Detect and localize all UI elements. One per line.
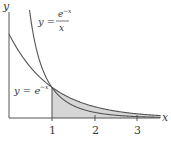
curve2-label-prefix: y = <box>37 16 55 27</box>
graph-figure: y x 1 2 3 y = e −x x y = e −x <box>0 0 171 142</box>
curve2-label-denominator: x <box>59 23 64 33</box>
curve2-label-numerator-exp: −x <box>63 7 72 14</box>
y-axis-label: y <box>2 0 10 13</box>
tick-label-3: 3 <box>134 124 141 137</box>
curve1-label-exp: −x <box>40 83 49 90</box>
curve1-label: y = e <box>13 85 40 96</box>
tick-label-1: 1 <box>49 124 56 137</box>
tick-label-2: 2 <box>92 124 99 137</box>
x-axis-label: x <box>162 111 169 124</box>
curve-exp-neg-x <box>9 34 161 116</box>
